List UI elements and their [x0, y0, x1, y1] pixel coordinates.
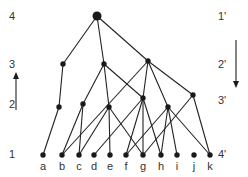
bottom-label-c: c	[76, 160, 82, 172]
edge-L3b-B	[83, 64, 104, 104]
edge-L3b-D	[104, 64, 143, 98]
arrows	[13, 40, 239, 110]
edge-E-i	[168, 107, 177, 155]
node-L3a	[60, 61, 65, 66]
node-b	[59, 152, 64, 157]
node-a	[40, 152, 45, 157]
edge-top-L3c	[97, 16, 148, 61]
bottom-label-d: d	[91, 160, 97, 172]
right-level-label-1: 1'	[218, 10, 226, 22]
edge-A-a	[43, 107, 59, 155]
node-C	[106, 104, 111, 109]
node-c	[76, 152, 81, 157]
right-level-label-4: 4'	[218, 148, 226, 160]
node-L3b	[101, 61, 106, 66]
edge-F-g	[143, 95, 193, 155]
node-g	[140, 152, 145, 157]
edge-top-L3a	[63, 16, 97, 64]
right-level-label-3: 3'	[218, 94, 226, 106]
bottom-label-k: k	[207, 160, 213, 172]
node-A	[56, 104, 61, 109]
edge-D-h	[143, 98, 161, 155]
left-level-label-3: 2	[9, 98, 15, 110]
node-L3c	[145, 58, 150, 63]
bottom-label-j: j	[192, 160, 195, 172]
down-arrow-icon	[233, 40, 239, 88]
node-top	[93, 12, 102, 21]
left-level-label-2: 3	[9, 58, 15, 70]
bottom-label-h: h	[158, 160, 164, 172]
bottom-label-e: e	[107, 160, 113, 172]
bottom-label-f: f	[124, 160, 128, 172]
edge-top-L3b	[97, 16, 104, 64]
hasse-diagram: 43211'2'3'4'abcdefghijk	[0, 0, 248, 177]
left-level-label-1: 4	[9, 10, 15, 22]
node-d	[91, 152, 96, 157]
edge-D-f	[126, 98, 143, 155]
edge-L3c-D	[143, 61, 148, 98]
node-B	[80, 101, 85, 106]
edges	[43, 16, 210, 155]
bottom-label-i: i	[176, 160, 178, 172]
bottom-label-a: a	[40, 160, 47, 172]
left-level-label-4: 1	[9, 148, 15, 160]
bottom-label-b: b	[59, 160, 65, 172]
bottom-label-g: g	[140, 160, 146, 172]
node-h	[158, 152, 163, 157]
node-F	[190, 92, 195, 97]
node-e	[107, 152, 112, 157]
node-E	[165, 104, 170, 109]
edge-L3c-F	[148, 61, 193, 95]
edge-L3a-A	[59, 64, 63, 107]
node-D	[140, 95, 145, 100]
node-i	[174, 152, 179, 157]
edge-D-d	[94, 98, 143, 155]
node-j	[191, 152, 196, 157]
edge-C-e	[109, 107, 110, 155]
node-k	[207, 152, 212, 157]
node-f	[123, 152, 128, 157]
edge-L3b-C	[104, 64, 109, 107]
right-level-label-2: 2'	[218, 58, 226, 70]
